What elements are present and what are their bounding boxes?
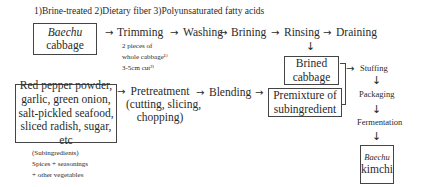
baechu-cabbage-line2: cabbage: [46, 39, 84, 52]
baechu-kimchi-box: Baechu kimchi: [360, 145, 394, 184]
pretreatment-line3: chopping): [126, 111, 194, 124]
subingredient-line-1: Red pepper powder,: [20, 79, 112, 93]
brined-cabbage-line1: Brined: [296, 57, 327, 70]
step-blending: Blending: [209, 86, 251, 98]
right-arrow-icon: →: [271, 27, 279, 38]
brined-cabbage-box: Brined cabbage: [284, 56, 339, 85]
step-trimming: Trimming: [117, 26, 163, 38]
step-brining: Brining: [231, 26, 266, 38]
down-arrow-icon: ↓: [372, 104, 381, 115]
trimming-note-1: 2 pieces of: [122, 41, 168, 52]
step-fermentation: Fermentation: [357, 117, 402, 127]
baechu-kimchi-line1: Baechu: [364, 153, 390, 163]
baechu-kimchi-line2: kimchi: [361, 163, 393, 176]
subingredients-note-3: + other vegetables: [32, 170, 88, 181]
right-arrow-icon: →: [170, 27, 178, 38]
premixture-line2: subingredient: [274, 103, 337, 116]
right-arrow-icon: →: [323, 27, 331, 38]
subingredients-note-2: Spices + seasonings: [32, 159, 88, 170]
right-arrow-icon: →: [105, 27, 113, 38]
down-arrow-icon: ↓: [372, 75, 381, 86]
right-arrow-icon: →: [117, 86, 125, 97]
step-packaging: Packaging: [359, 89, 394, 99]
right-arrow-icon: →: [219, 27, 227, 38]
step-pretreatment: Pretreatment (cutting, slicing, chopping…: [126, 85, 194, 125]
step-rinsing: Rinsing: [284, 26, 320, 38]
right-arrow-icon: →: [196, 87, 204, 98]
step-stuffing: Stuffing: [360, 63, 388, 73]
right-arrow-icon: →: [346, 63, 354, 74]
step-draining: Draining: [336, 26, 377, 38]
down-arrow-icon: ↓: [306, 41, 315, 52]
pretreatment-line1: Pretreatment: [126, 85, 194, 98]
subingredients-note-1: (Subingredients): [32, 148, 88, 159]
baechu-cabbage-line1: Baechu: [48, 26, 82, 39]
subingredient-line-4: sliced radish, sugar, etc: [16, 120, 116, 148]
brined-cabbage-line2: cabbage: [293, 71, 331, 84]
figure-footnote-title: 1)Brine-treated 2)Dietary fiber 3)Polyun…: [34, 6, 264, 16]
down-arrow-icon: ↓: [372, 131, 381, 142]
subingredient-line-2: garlic, green onion,: [21, 93, 110, 107]
step-washing: Washing: [183, 26, 223, 38]
trimming-notes: 2 pieces of whole cabbage¹⁾ 3-5cm cut²⁾: [122, 41, 168, 75]
pretreatment-line2: (cutting, slicing,: [126, 98, 194, 111]
trimming-note-3: 3-5cm cut²⁾: [122, 63, 168, 74]
right-arrow-icon: →: [255, 87, 263, 98]
premixture-line1: Premixture of: [273, 89, 337, 102]
premixture-box: Premixture of subingredient: [268, 88, 342, 117]
subingredients-note: (Subingredients) Spices + seasonings + o…: [32, 148, 88, 182]
subingredients-box: Red pepper powder, garlic, green onion, …: [15, 84, 117, 143]
baechu-cabbage-box: Baechu cabbage: [33, 23, 97, 55]
trimming-note-2: whole cabbage¹⁾: [122, 52, 168, 63]
subingredient-line-3: salt-pickled seafood,: [18, 107, 113, 121]
